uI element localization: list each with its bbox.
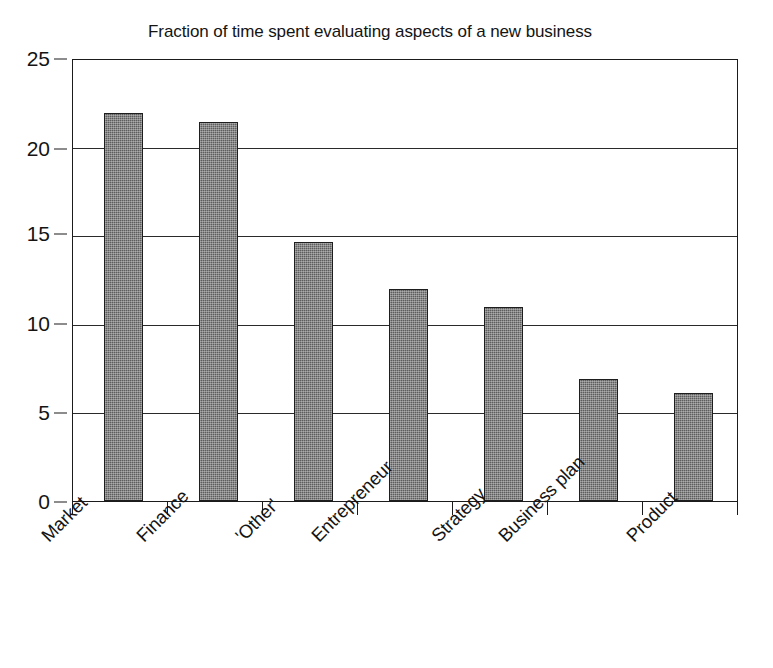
x-tick-mark-2 bbox=[262, 502, 263, 515]
gridline-20 bbox=[73, 148, 737, 149]
bar-product bbox=[674, 393, 713, 501]
bar-market bbox=[104, 113, 143, 501]
y-axis: 25 20 15 10 5 0 bbox=[0, 0, 72, 668]
bar-finance bbox=[199, 122, 238, 501]
y-tick-label-0: 0 bbox=[38, 490, 50, 514]
x-tick-mark-7 bbox=[737, 502, 738, 515]
y-tick-label-10: 10 bbox=[27, 312, 50, 336]
y-tick-label-25: 25 bbox=[27, 47, 50, 71]
y-tick-mark-25 bbox=[54, 59, 67, 60]
y-tick-mark-5 bbox=[54, 413, 67, 414]
y-tick-label-20: 20 bbox=[27, 137, 50, 161]
x-tick-mark-6 bbox=[642, 502, 643, 515]
plot-area bbox=[72, 59, 738, 502]
x-tick-mark-1 bbox=[167, 502, 168, 515]
gridline-15 bbox=[73, 236, 737, 237]
x-tick-mark-5 bbox=[547, 502, 548, 515]
y-tick-mark-20 bbox=[54, 149, 67, 150]
y-tick-label-5: 5 bbox=[38, 401, 50, 425]
x-tick-mark-3 bbox=[357, 502, 358, 515]
bar-strategy bbox=[484, 307, 523, 501]
x-tick-mark-0 bbox=[72, 502, 73, 515]
bar-business-plan bbox=[579, 379, 618, 501]
bar-chart-figure: Fraction of time spent evaluating aspect… bbox=[0, 0, 773, 668]
y-tick-label-15: 15 bbox=[27, 222, 50, 246]
bar-other bbox=[294, 242, 333, 501]
chart-title: Fraction of time spent evaluating aspect… bbox=[72, 22, 668, 42]
y-tick-mark-15 bbox=[54, 234, 67, 235]
x-tick-mark-4 bbox=[452, 502, 453, 515]
bar-entrepreneur bbox=[389, 289, 428, 501]
y-tick-mark-0 bbox=[54, 502, 67, 503]
y-tick-mark-10 bbox=[54, 324, 67, 325]
x-category-label-other: 'Other' bbox=[231, 494, 283, 546]
